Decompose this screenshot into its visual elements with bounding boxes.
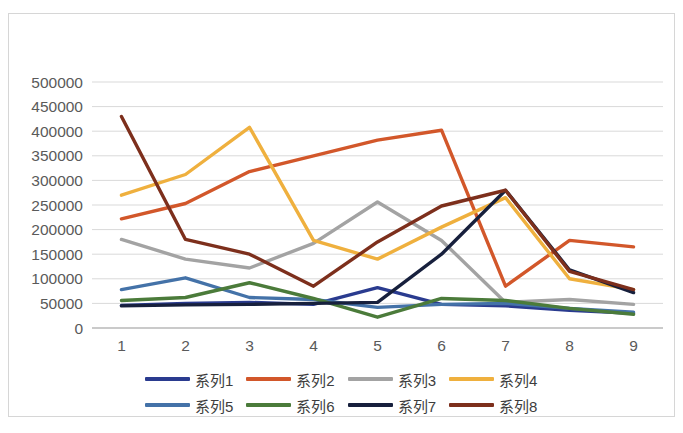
x-tick-label: 2 (181, 337, 190, 354)
legend-swatch-icon (348, 403, 393, 407)
x-tick-label: 7 (501, 337, 510, 354)
y-tick-label: 150000 (31, 246, 83, 263)
legend-item-4[interactable]: 系列4 (449, 369, 537, 390)
y-tick-label: 200000 (31, 221, 83, 238)
y-tick-label: 300000 (31, 172, 83, 189)
series-line-4 (121, 127, 633, 289)
y-tick-label: 500000 (31, 74, 83, 91)
legend-swatch-icon (449, 377, 494, 381)
chart-container: 5000004500004000003500003000002500002000… (0, 0, 683, 433)
legend-row-top: 系列1系列2系列3系列4 (145, 366, 565, 392)
legend-item-8[interactable]: 系列8 (449, 395, 537, 416)
y-tick-label: 450000 (31, 98, 83, 115)
y-tick-label: 0 (74, 320, 83, 337)
legend-swatch-icon (246, 403, 291, 407)
legend-label: 系列5 (195, 395, 233, 416)
y-axis-tick-labels: 5000004500004000003500003000002500002000… (31, 74, 83, 337)
legend-label: 系列8 (499, 395, 537, 416)
legend-item-3[interactable]: 系列3 (348, 369, 436, 390)
x-tick-label: 5 (373, 337, 382, 354)
legend-item-6[interactable]: 系列6 (246, 395, 334, 416)
x-tick-label: 1 (117, 337, 126, 354)
y-tick-label: 50000 (40, 295, 83, 312)
y-tick-label: 350000 (31, 147, 83, 164)
legend-item-2[interactable]: 系列2 (246, 369, 334, 390)
legend-label: 系列2 (296, 369, 334, 390)
x-tick-label: 6 (437, 337, 446, 354)
x-tick-label: 8 (565, 337, 574, 354)
legend-swatch-icon (145, 377, 190, 381)
legend-swatch-icon (348, 377, 393, 381)
legend-row-bottom: 系列5系列6系列7系列8 (145, 392, 565, 418)
x-tick-label: 4 (309, 337, 318, 354)
y-tick-label: 100000 (31, 270, 83, 287)
legend-label: 系列7 (398, 395, 436, 416)
legend-item-1[interactable]: 系列1 (145, 369, 233, 390)
y-tick-label: 400000 (31, 123, 83, 140)
legend-swatch-icon (246, 377, 291, 381)
legend-label: 系列1 (195, 369, 233, 390)
x-axis-tick-labels: 123456789 (117, 337, 638, 354)
x-tick-label: 3 (245, 337, 254, 354)
legend-label: 系列3 (398, 369, 436, 390)
x-tick-label: 9 (629, 337, 638, 354)
legend-item-5[interactable]: 系列5 (145, 395, 233, 416)
data-series-lines (121, 116, 633, 317)
legend-label: 系列4 (499, 369, 537, 390)
y-tick-label: 250000 (31, 197, 83, 214)
legend-swatch-icon (449, 403, 494, 407)
legend-swatch-icon (145, 403, 190, 407)
legend-label: 系列6 (296, 395, 334, 416)
legend-item-7[interactable]: 系列7 (348, 395, 436, 416)
chart-legend: 系列1系列2系列3系列4 系列5系列6系列7系列8 (145, 366, 565, 418)
